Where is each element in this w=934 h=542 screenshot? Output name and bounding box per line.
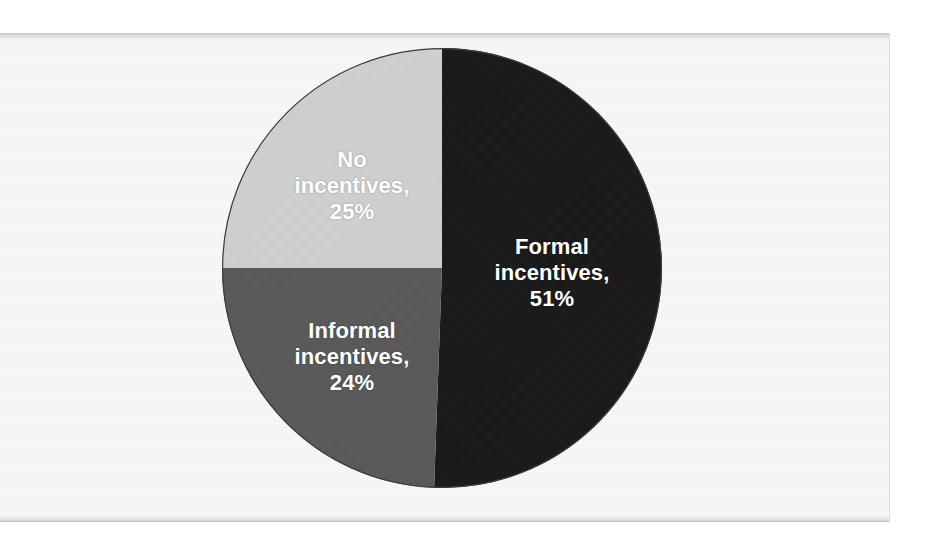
pie-label-no-incentives: No incentives, 25% xyxy=(272,147,432,225)
screenshot-root: No incentives, 25% Informal incentives, … xyxy=(0,0,934,542)
pie-label-informal-incentives: Informal incentives, 24% xyxy=(266,318,438,396)
pie-label-formal-incentives: Formal incentives, 51% xyxy=(468,234,636,312)
pie-chart-figure: No incentives, 25% Informal incentives, … xyxy=(0,0,934,542)
